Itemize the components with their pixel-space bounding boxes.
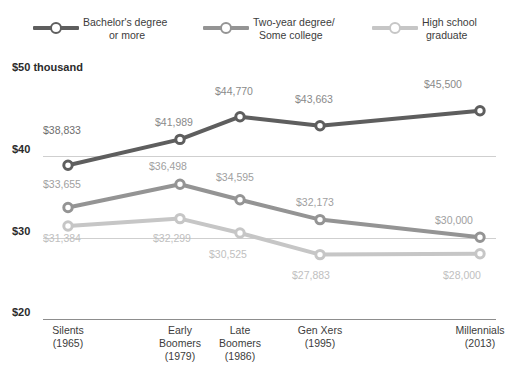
data-label-bachelors-silents: $38,833 bbox=[43, 124, 81, 136]
data-point-marker[interactable] bbox=[476, 107, 484, 115]
series-line-bachelors bbox=[68, 111, 480, 165]
data-label-high-school-late-boomers: $30,525 bbox=[209, 248, 247, 260]
x-axis-tick-millennials: Millennials (2013) bbox=[437, 324, 510, 350]
data-label-high-school-silents: $31,384 bbox=[43, 232, 81, 244]
x-tick-name: Late bbox=[205, 324, 275, 337]
series-line-two-year bbox=[68, 184, 480, 237]
data-label-two-year-late-boomers: $34,595 bbox=[216, 171, 254, 183]
series-line-high-school bbox=[68, 219, 480, 255]
data-point-marker[interactable] bbox=[176, 135, 184, 143]
data-point-marker[interactable] bbox=[64, 203, 72, 211]
data-point-marker[interactable] bbox=[236, 113, 244, 121]
data-label-two-year-millennials: $30,000 bbox=[435, 214, 473, 226]
data-point-marker[interactable] bbox=[176, 214, 184, 222]
x-tick-name2: Boomers bbox=[205, 337, 275, 350]
x-tick-year: (1965) bbox=[28, 337, 108, 350]
data-label-high-school-millennials: $28,000 bbox=[443, 269, 481, 281]
data-label-bachelors-gen-xers: $43,663 bbox=[295, 93, 333, 105]
chart-container: Bachelor's degreeor more Two-year degree… bbox=[0, 0, 510, 374]
data-label-two-year-gen-xers: $32,173 bbox=[296, 196, 334, 208]
x-tick-year: (1986) bbox=[205, 350, 275, 363]
data-label-bachelors-late-boomers: $44,770 bbox=[215, 85, 253, 97]
data-label-bachelors-millennials: $45,500 bbox=[424, 78, 462, 90]
x-tick-name: Gen Xers bbox=[282, 324, 358, 337]
data-label-two-year-early-boomers: $36,498 bbox=[149, 160, 187, 172]
data-point-marker[interactable] bbox=[64, 161, 72, 169]
x-tick-name: Millennials bbox=[437, 324, 510, 337]
x-tick-year: (1995) bbox=[282, 337, 358, 350]
x-tick-name: Silents bbox=[28, 324, 108, 337]
data-point-marker[interactable] bbox=[236, 229, 244, 237]
data-label-two-year-silents: $33,655 bbox=[43, 178, 81, 190]
data-point-marker[interactable] bbox=[316, 250, 324, 258]
data-point-marker[interactable] bbox=[316, 122, 324, 130]
data-point-marker[interactable] bbox=[476, 250, 484, 258]
data-label-bachelors-early-boomers: $41,989 bbox=[155, 116, 193, 128]
data-label-high-school-gen-xers: $27,883 bbox=[292, 269, 330, 281]
data-point-marker[interactable] bbox=[64, 222, 72, 230]
x-axis-tick-late-boomers: Late Boomers (1986) bbox=[205, 324, 275, 363]
x-axis-tick-gen-xers: Gen Xers (1995) bbox=[282, 324, 358, 350]
data-point-marker[interactable] bbox=[316, 215, 324, 223]
data-point-marker[interactable] bbox=[236, 196, 244, 204]
data-point-marker[interactable] bbox=[176, 180, 184, 188]
x-axis-tick-silents: Silents (1965) bbox=[28, 324, 108, 350]
data-point-marker[interactable] bbox=[476, 233, 484, 241]
x-tick-year: (2013) bbox=[437, 337, 510, 350]
data-label-high-school-early-boomers: $32,299 bbox=[153, 232, 191, 244]
